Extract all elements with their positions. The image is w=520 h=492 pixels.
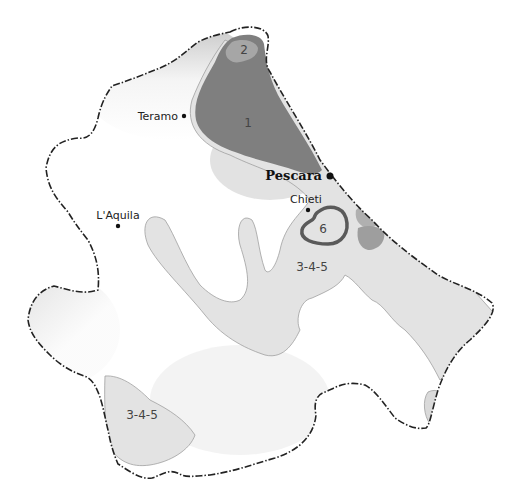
zone-2-label: 2 [240,43,248,57]
city-dot-icon [182,114,186,118]
abruzzo-map: 2 1 6 3-4-5 3-4-5 Teramo Pescara Chieti … [0,0,520,492]
zone-1-label: 1 [244,116,252,130]
city-dot-icon [116,224,120,228]
city-label-laquila: L'Aquila [96,209,139,222]
region-fill [0,0,520,492]
zone-3-4-5-south-label: 3-4-5 [126,408,158,422]
zone-3-4-5-east-label: 3-4-5 [296,260,328,274]
city-label-pescara: Pescara [265,168,322,183]
zone-3-4-5-coast-patch [424,390,446,424]
city-dot-icon [306,208,310,212]
zone-6-label: 6 [319,222,327,236]
city-dot-icon [327,173,334,180]
city-label-teramo: Teramo [137,110,179,123]
city-label-chieti: Chieti [290,193,322,206]
